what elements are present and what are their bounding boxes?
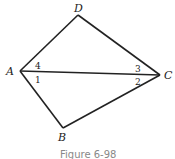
angle-label-1: 1 (35, 75, 41, 85)
point-label-d: D (73, 2, 83, 15)
segment-bc (63, 75, 160, 128)
geometry-figure: D A C B 4 1 3 2 Figure 6-98 (0, 0, 175, 159)
segment-dc (78, 15, 160, 75)
angle-label-4: 4 (35, 61, 41, 71)
segment-ad (20, 15, 78, 71)
point-label-b: B (57, 131, 66, 144)
point-label-a: A (5, 65, 14, 78)
point-label-c: C (164, 69, 173, 82)
angle-label-3: 3 (135, 64, 141, 74)
angle-label-2: 2 (135, 77, 141, 87)
figure-caption: Figure 6-98 (60, 149, 116, 159)
segment-ab (20, 71, 63, 128)
